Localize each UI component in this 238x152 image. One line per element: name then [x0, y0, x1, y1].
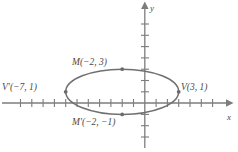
point-label-M: M(−2, 3)	[72, 58, 107, 68]
point-label-V-prime: V′(−7, 1)	[2, 83, 37, 93]
point-M	[120, 67, 124, 71]
y-axis-label: y	[150, 4, 154, 13]
figure-canvas: M(−2, 3) M′(−2, −1) V′(−7, 1) V(3, 1) x …	[0, 0, 238, 152]
coordinate-plot	[0, 0, 238, 152]
plotted-points	[64, 67, 181, 116]
y-axis	[141, 8, 149, 148]
x-axis	[2, 99, 227, 107]
point-label-M-prime: M′(−2, −1)	[72, 118, 115, 128]
point-V-prime	[64, 90, 68, 94]
x-axis-label: x	[227, 113, 231, 122]
ellipse-curve	[66, 69, 179, 114]
point-label-V: V(3, 1)	[181, 83, 207, 93]
point-M-prime	[120, 113, 124, 117]
